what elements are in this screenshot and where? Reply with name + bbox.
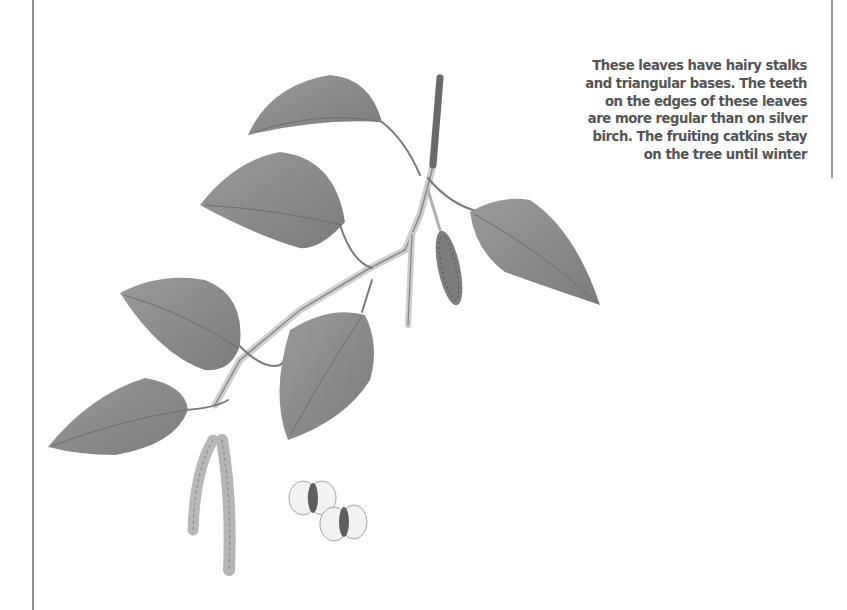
caption-line: are more regular than on silver (507, 110, 807, 128)
caption-text: These leaves have hairy stalks and trian… (507, 57, 807, 164)
leaf (48, 378, 188, 455)
male-catkin (193, 440, 213, 530)
leaf (248, 75, 382, 135)
caption-line: on the edges of these leaves (507, 93, 807, 111)
leaf (279, 312, 374, 440)
male-catkin (222, 440, 230, 570)
leaf (120, 278, 241, 370)
leaf (200, 152, 345, 248)
winged-seed (320, 505, 367, 541)
caption-line: on the tree until winter (507, 146, 807, 164)
caption-line: birch. The fruiting catkins stay (507, 128, 807, 146)
caption-line: These leaves have hairy stalks (507, 57, 807, 75)
leaf (470, 199, 600, 305)
fruiting-catkin (430, 229, 467, 308)
caption-line: and triangular bases. The teeth (507, 75, 807, 93)
